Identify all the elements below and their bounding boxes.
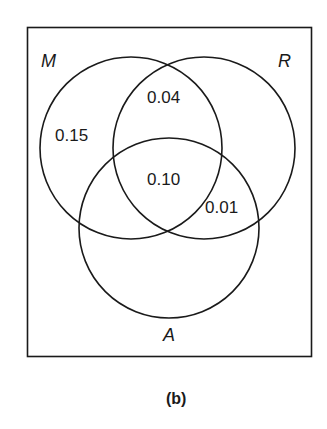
region-m-r-a-value: 0.10 xyxy=(147,170,180,189)
set-a-circle xyxy=(79,138,259,318)
set-r-circle xyxy=(113,57,295,239)
figure-caption: (b) xyxy=(166,390,186,407)
region-m-and-r-value: 0.04 xyxy=(147,88,180,107)
region-r-and-a-value: 0.01 xyxy=(205,198,238,217)
venn-diagram: M R A 0.04 0.15 0.10 0.01 (b) xyxy=(0,0,327,429)
set-m-label: M xyxy=(41,51,56,71)
set-r-label: R xyxy=(278,51,291,71)
universe-rectangle xyxy=(28,28,312,357)
set-a-label: A xyxy=(162,325,175,345)
region-m-only-value: 0.15 xyxy=(55,126,88,145)
set-m-circle xyxy=(40,57,222,239)
